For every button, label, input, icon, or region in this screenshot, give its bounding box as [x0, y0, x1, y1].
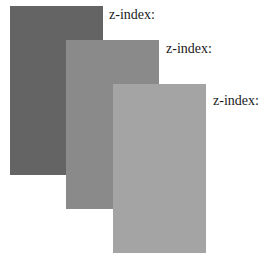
layer-label-1: z-index:	[109, 7, 155, 23]
layer-label-2: z-index:	[166, 41, 212, 57]
layer-label-3: z-index:	[213, 93, 259, 109]
layer-box-3	[113, 84, 206, 253]
